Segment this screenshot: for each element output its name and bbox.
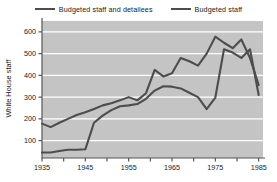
x-tick-label: 1935 — [34, 163, 50, 172]
y-tick-label: 600 — [24, 27, 36, 36]
y-tick-label: 400 — [24, 71, 36, 80]
chart-plot-area: 100200300400500600 193519451955196519751… — [0, 0, 277, 182]
x-tick-label: 1965 — [164, 163, 180, 172]
x-tick-labels: 193519451955196519751985 — [34, 163, 267, 172]
x-tick-label: 1975 — [207, 163, 223, 172]
y-tick-label: 100 — [24, 136, 36, 145]
y-tick-label: 200 — [24, 114, 36, 123]
x-tick-label: 1985 — [251, 163, 267, 172]
x-tick-label: 1955 — [121, 163, 137, 172]
y-tick-labels: 100200300400500600 — [24, 27, 36, 145]
y-tick-label: 300 — [24, 93, 36, 102]
plot-background — [42, 21, 263, 158]
y-tick-label: 500 — [24, 49, 36, 58]
chart-figure: Budgeted staff and detailees Budgeted st… — [0, 0, 277, 182]
x-tick-label: 1945 — [77, 163, 93, 172]
